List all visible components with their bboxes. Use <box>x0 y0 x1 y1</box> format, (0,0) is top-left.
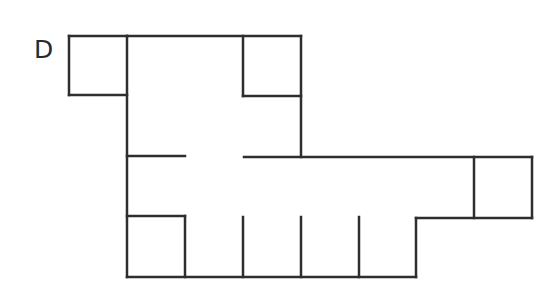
floor-plan-diagram <box>0 0 560 293</box>
